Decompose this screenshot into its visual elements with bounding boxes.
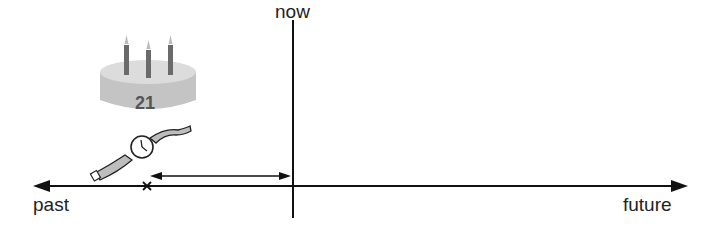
- arrow-right-icon: [671, 180, 688, 192]
- future-label: future: [623, 195, 672, 214]
- now-label: now: [275, 2, 310, 21]
- timeline-diagram: [0, 0, 709, 226]
- past-label: past: [33, 195, 69, 214]
- elapsed-time-arrow: [150, 172, 291, 180]
- cake-number: 21: [135, 94, 155, 112]
- arrow-left-icon: [33, 180, 50, 192]
- wristwatch-icon: [90, 126, 191, 181]
- timeline-axis: [33, 180, 688, 192]
